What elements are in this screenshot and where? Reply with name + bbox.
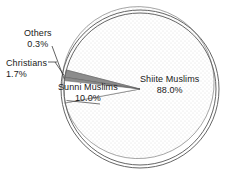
slice-label-christians: Christians 1.7%	[6, 58, 47, 80]
slice-label-sunni: Sunni Muslims 10.0%	[58, 82, 118, 104]
pie-chart: Others 0.3% Christians 1.7% Sunni Muslim…	[0, 0, 228, 174]
slice-label-others-percent: 0.3%	[24, 39, 52, 50]
leader-line-christians	[55, 62, 64, 76]
slice-label-others-name: Others	[24, 28, 52, 39]
slice-label-sunni-percent: 10.0%	[58, 93, 118, 104]
slice-label-shiite-name: Shiite Muslims	[140, 74, 199, 85]
slice-label-sunni-name: Sunni Muslims	[58, 82, 118, 93]
slice-label-christians-name: Christians	[6, 58, 47, 69]
slice-label-others: Others 0.3%	[24, 28, 52, 50]
slice-label-shiite: Shiite Muslims 88.0%	[140, 74, 199, 96]
slice-label-shiite-percent: 88.0%	[140, 85, 199, 96]
leader-line-others	[52, 46, 64, 79]
slice-label-christians-percent: 1.7%	[6, 69, 47, 80]
